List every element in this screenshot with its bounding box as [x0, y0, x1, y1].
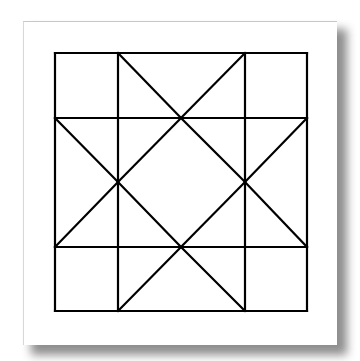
diagram-line: [55, 118, 118, 182]
diagram-line: [55, 182, 118, 247]
diagram-line: [118, 118, 181, 182]
diagram-line: [181, 182, 245, 247]
diagram-line: [245, 182, 307, 247]
diagram-lines: [55, 53, 307, 311]
diagram-line: [181, 118, 245, 182]
diagram-line: [181, 247, 245, 311]
diagram-line: [118, 53, 181, 118]
diagram-line: [245, 118, 307, 182]
diagram-line: [181, 53, 245, 118]
diagram-line: [118, 247, 181, 311]
quilt-star-diagram: [0, 0, 360, 361]
diagram-line: [118, 182, 181, 247]
